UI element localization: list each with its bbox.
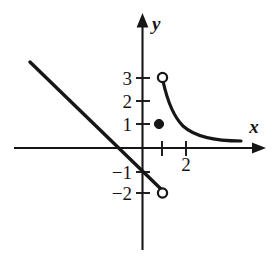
figure-background: [0, 0, 273, 262]
x-tick-label-2: 2: [181, 154, 191, 175]
y-tick-label-neg1: −1: [112, 162, 132, 183]
y-tick-label-2: 2: [123, 91, 133, 112]
function-graph-figure: 3 2 1 −1 −2 2 y x: [0, 0, 273, 262]
y-tick-label-neg2: −2: [112, 183, 132, 204]
y-axis-label: y: [150, 13, 161, 34]
filled-point-marker: [154, 119, 163, 128]
y-tick-label-3: 3: [123, 68, 133, 89]
open-point-lower-marker: [158, 188, 167, 197]
y-tick-label-1: 1: [123, 114, 133, 135]
x-axis-label: x: [248, 116, 259, 137]
open-point-upper-marker: [158, 73, 167, 82]
